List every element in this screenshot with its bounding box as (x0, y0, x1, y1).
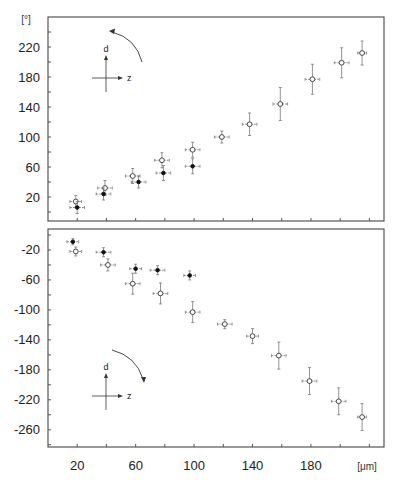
data-point (331, 388, 346, 415)
filled-circle-marker (75, 206, 79, 210)
open-circle-marker (310, 77, 315, 82)
plot-frame (48, 229, 384, 447)
arrow-up-icon (104, 55, 108, 60)
y-tick-label: -220 (14, 392, 40, 407)
y-tick-label: -20 (21, 242, 40, 257)
x-tick-label: 60 (128, 458, 142, 473)
open-circle-marker (247, 122, 252, 127)
filled-circle-marker (102, 250, 106, 254)
open-circle-marker (190, 310, 195, 315)
data-point (358, 404, 367, 431)
data-point (70, 202, 85, 214)
open-circle-marker (278, 102, 283, 107)
open-circle-marker (360, 415, 365, 420)
open-circle-marker (339, 60, 344, 65)
data-point (67, 239, 79, 245)
orientation-inset: zd (92, 350, 146, 410)
open-circle-marker (73, 249, 78, 254)
filled-circle-marker (71, 240, 75, 244)
filled-circle-marker (137, 180, 141, 184)
y-tick-label: -180 (14, 362, 40, 377)
inset-d-label: d (104, 362, 109, 372)
data-point (101, 259, 116, 271)
open-circle-marker (222, 322, 227, 327)
data-point (125, 273, 140, 294)
open-circle-marker (219, 135, 224, 140)
bottom-panel: -20-60-100-140-180-220-2602060100140180z… (14, 229, 384, 473)
data-point (334, 48, 349, 78)
x-tick-label: 140 (242, 458, 264, 473)
data-point (215, 131, 230, 143)
data-point (96, 188, 111, 200)
figure: 2060100140180220zd -20-60-100-140-180-22… (0, 0, 398, 482)
inset-d-label: d (104, 44, 109, 54)
y-tick-label: 20 (26, 190, 40, 205)
open-circle-marker (160, 158, 165, 163)
open-circle-marker (158, 291, 163, 296)
filled-circle-marker (191, 164, 195, 168)
rotation-arrow-ccw-icon (112, 32, 142, 62)
rotation-arrow-cw-icon (112, 350, 143, 379)
data-point (150, 266, 165, 275)
data-point (184, 271, 196, 280)
inset-z-label: z (127, 391, 132, 401)
data-point (273, 88, 288, 121)
open-series (70, 247, 367, 431)
y-tick-label: 60 (26, 160, 40, 175)
data-point (156, 166, 171, 181)
data-point (242, 113, 257, 136)
open-circle-marker (307, 379, 312, 384)
open-circle-marker (130, 174, 135, 179)
data-point (185, 142, 200, 157)
y-tick-label: 100 (18, 130, 40, 145)
arrow-right-icon (118, 394, 123, 398)
open-circle-marker (276, 353, 281, 358)
filled-circle-marker (102, 192, 106, 196)
filled-circle-marker (188, 274, 192, 278)
open-circle-marker (105, 263, 110, 268)
plot-frame (48, 17, 384, 221)
data-point (185, 159, 200, 174)
y-tick-label: 180 (18, 70, 40, 85)
y-tick-label: 140 (18, 100, 40, 115)
filled-series (67, 239, 196, 280)
open-circle-marker (250, 334, 255, 339)
open-circle-marker (336, 399, 341, 404)
y-tick-label: -140 (14, 332, 40, 347)
data-point (96, 248, 111, 257)
data-point (305, 64, 320, 94)
data-point (130, 264, 142, 273)
open-circle-marker (190, 147, 195, 152)
y-tick-label: -260 (14, 422, 40, 437)
filled-circle-marker (156, 268, 160, 272)
open-series (70, 41, 367, 208)
open-circle-marker (130, 281, 135, 286)
x-tick-label: 100 (183, 458, 205, 473)
x-unit-label: [μm] (357, 461, 377, 472)
y-tick-label: -60 (21, 272, 40, 287)
data-point (247, 329, 259, 344)
y-tick-label: -100 (14, 302, 40, 317)
data-point (70, 247, 82, 256)
y-tick-label: 220 (18, 40, 40, 55)
data-point (153, 283, 168, 304)
data-point (272, 342, 287, 369)
x-tick-label: 20 (70, 458, 84, 473)
filled-circle-marker (162, 171, 166, 175)
arrow-right-icon (118, 76, 123, 80)
top-panel: 2060100140180220zd (18, 17, 384, 221)
data-point (358, 41, 367, 65)
y-unit-label: [°] (21, 14, 31, 25)
data-point (302, 368, 317, 395)
x-tick-label: 180 (300, 458, 322, 473)
inset-z-label: z (127, 73, 132, 83)
orientation-inset: zd (92, 29, 142, 93)
filled-circle-marker (134, 267, 138, 271)
open-circle-marker (360, 51, 365, 56)
data-point (185, 302, 200, 323)
data-point (217, 320, 232, 329)
arrow-up-icon (104, 373, 108, 378)
filled-series (70, 159, 200, 214)
